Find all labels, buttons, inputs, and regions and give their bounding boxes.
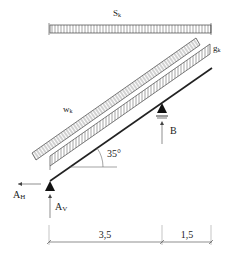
left-pin-support: AH AV: [13, 181, 67, 218]
reaction-ah-label: AH: [13, 189, 25, 201]
dead-load-label: gk: [213, 43, 221, 53]
dimension-label-1: 3,5: [99, 229, 112, 240]
wind-load-label: wk: [63, 104, 73, 114]
arrow-up-icon: [160, 121, 164, 125]
dimension-line: 3,5 1,5: [47, 225, 213, 245]
snow-load-label: Sk: [113, 8, 121, 18]
dead-load: gk: [50, 43, 221, 170]
wind-load: wk: [32, 38, 200, 160]
structural-diagram: Sk wk gk 35° AH AV B: [0, 0, 239, 258]
arrow-left-icon: [18, 182, 22, 186]
reaction-av-label: AV: [55, 201, 67, 213]
dimension-label-2: 1,5: [181, 229, 194, 240]
right-roller-support: B: [156, 103, 177, 144]
snow-load: Sk: [49, 8, 211, 35]
arrow-up-icon: [48, 194, 52, 198]
reaction-b-label: B: [170, 125, 177, 136]
angle-indicator: 35°: [70, 148, 121, 167]
angle-label: 35°: [107, 148, 121, 159]
